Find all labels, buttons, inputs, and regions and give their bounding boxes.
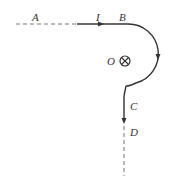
label-b: B [119,12,126,23]
label-d: D [130,127,138,138]
wire-join [124,86,126,96]
label-o: O [107,56,115,67]
down-arrow-icon [122,118,127,124]
arc-arrow-icon [156,54,161,60]
label-i: I [96,12,100,23]
label-c: C [130,101,137,112]
diagram-svg [0,0,171,183]
wire-arc-bc [126,24,158,86]
diagram-canvas: A I B O C D [0,0,171,183]
field-into-page-icon [120,56,130,66]
label-a: A [32,12,39,23]
